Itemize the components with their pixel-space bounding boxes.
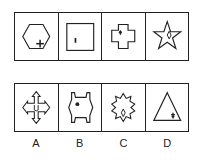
- eight-point-star-diamond-icon: [102, 84, 145, 131]
- option-label-a: A: [14, 137, 58, 149]
- triangle-tree-icon: [146, 84, 189, 131]
- option-b[interactable]: [59, 84, 103, 131]
- options-row: [14, 83, 189, 132]
- option-label-c: C: [102, 137, 146, 149]
- option-label-b: B: [58, 137, 102, 149]
- hexagon-plus-icon: [15, 13, 58, 60]
- question-cell-1: [15, 13, 59, 60]
- option-labels: A B C D: [14, 137, 189, 149]
- option-d[interactable]: [146, 84, 189, 131]
- option-c[interactable]: [102, 84, 146, 131]
- four-arrow-cross-icon: [15, 84, 58, 131]
- question-cell-2: [59, 13, 103, 60]
- notched-shape-blob-icon: [59, 84, 102, 131]
- square-dash-icon: [59, 13, 102, 60]
- cross-blob-icon: [102, 13, 145, 60]
- question-cell-3: [102, 13, 146, 60]
- option-a[interactable]: [15, 84, 59, 131]
- option-label-d: D: [145, 137, 189, 149]
- star-diamond-icon: [146, 13, 189, 60]
- question-cell-4: [146, 13, 189, 60]
- question-row: [14, 12, 189, 61]
